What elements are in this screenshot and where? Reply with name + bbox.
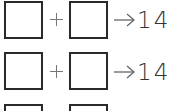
answer-box-2a[interactable] [4,52,43,90]
plus-icon [50,65,63,78]
arrow-right-icon [114,65,136,79]
answer-box-1a[interactable] [4,1,43,39]
arrow-right-icon [114,13,136,27]
answer-box-1b[interactable] [69,1,108,39]
answer-box-2b[interactable] [69,52,108,90]
result-value: 14 [137,61,169,84]
result-value: 14 [137,9,169,32]
answer-box-3b[interactable] [69,104,108,111]
plus-icon [50,13,63,26]
answer-box-3a[interactable] [4,104,43,111]
